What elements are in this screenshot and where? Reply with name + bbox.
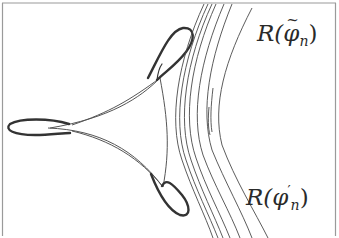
phi-symbol: φ xyxy=(272,184,288,210)
label-r-phi-tilde-n: R(φ~n) xyxy=(257,22,317,48)
label-bottom-base: R( xyxy=(246,184,272,210)
label-top-base: R( xyxy=(257,20,283,46)
lobes xyxy=(8,28,192,215)
subscript-n: n xyxy=(291,197,300,213)
phi-tilde: φ~ xyxy=(283,22,299,45)
close-paren: ) xyxy=(300,184,309,210)
lobe-lower xyxy=(151,174,189,215)
lobe-left xyxy=(8,120,70,136)
close-paren: ) xyxy=(308,20,317,46)
lobe-upper xyxy=(148,28,193,80)
label-r-phi-prime-n: R(φ′n) xyxy=(246,184,309,212)
tilde-accent: ~ xyxy=(286,13,299,28)
